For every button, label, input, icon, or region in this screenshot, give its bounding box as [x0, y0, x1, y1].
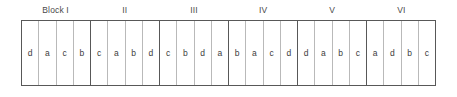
block-label-2: II [90, 3, 159, 18]
block-label-3: III [159, 3, 228, 18]
plot-cell: c [91, 21, 108, 85]
block-group-5: d a b c [298, 21, 367, 85]
block-label-4: IV [229, 3, 298, 18]
block-label-6: VI [367, 3, 436, 18]
plot-cell: c [419, 21, 435, 85]
plot-cell: c [350, 21, 366, 85]
design-table: d a c b c a b d c b d a b a c d d a b c [21, 20, 436, 86]
plot-cell: d [384, 21, 401, 85]
plot-cell: b [126, 21, 143, 85]
plot-cell: a [246, 21, 263, 85]
plot-cell: a [367, 21, 384, 85]
plot-cell: d [298, 21, 315, 85]
plot-cell: d [22, 21, 39, 85]
block-label-row: Block I II III IV V VI [21, 3, 436, 18]
plot-cell: c [160, 21, 177, 85]
plot-cell: b [74, 21, 90, 85]
block-label-1: Block I [21, 3, 90, 18]
block-group-6: a d b c [367, 21, 435, 85]
plot-cell: b [177, 21, 194, 85]
block-label-5: V [298, 3, 367, 18]
block-group-4: b a c d [229, 21, 298, 85]
block-group-2: c a b d [91, 21, 160, 85]
plot-cell: b [229, 21, 246, 85]
block-group-1: d a c b [22, 21, 91, 85]
plot-cell: b [402, 21, 419, 85]
block-design-diagram: Block I II III IV V VI d a c b c a b d c… [0, 0, 457, 97]
plot-cell: c [264, 21, 281, 85]
block-group-3: c b d a [160, 21, 229, 85]
plot-cell: a [108, 21, 125, 85]
plot-cell: d [195, 21, 212, 85]
plot-cell: a [212, 21, 228, 85]
plot-cell: a [315, 21, 332, 85]
plot-cell: d [143, 21, 159, 85]
plot-cell: d [281, 21, 297, 85]
plot-cell: c [57, 21, 74, 85]
plot-cell: b [333, 21, 350, 85]
plot-cell: a [39, 21, 56, 85]
